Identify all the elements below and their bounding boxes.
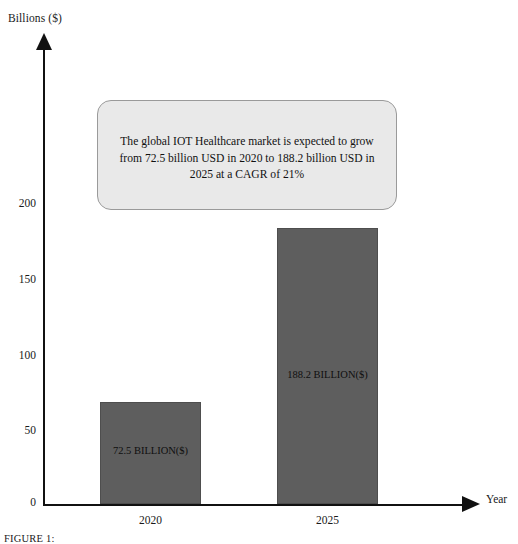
- callout-text: The global IOT Healthcare market is expe…: [110, 134, 384, 184]
- x-category-2025: 2025: [277, 514, 378, 526]
- x-axis-title: Year: [486, 493, 507, 505]
- figure-caption: FIGURE 1:: [4, 533, 55, 544]
- y-axis-line: [43, 47, 45, 506]
- bar-2020[interactable]: 72.5 BILLION($): [100, 402, 201, 504]
- bar-value-label: 188.2 BILLION($): [278, 369, 377, 380]
- x-category-2020: 2020: [100, 514, 201, 526]
- x-axis-arrow-icon: [462, 496, 480, 512]
- market-growth-callout: The global IOT Healthcare market is expe…: [97, 100, 397, 210]
- bar-value-label: 72.5 BILLION($): [101, 445, 200, 456]
- y-tick-label: 50: [0, 424, 36, 436]
- bar-2025[interactable]: 188.2 BILLION($): [277, 228, 378, 504]
- y-axis-arrow-icon: [36, 33, 52, 50]
- y-tick-label: 150: [0, 273, 36, 285]
- y-axis-title: Billions ($): [8, 12, 62, 24]
- y-tick-label: 100: [0, 349, 36, 361]
- y-tick-label: 200: [0, 197, 36, 209]
- y-tick-label: 0: [0, 496, 36, 508]
